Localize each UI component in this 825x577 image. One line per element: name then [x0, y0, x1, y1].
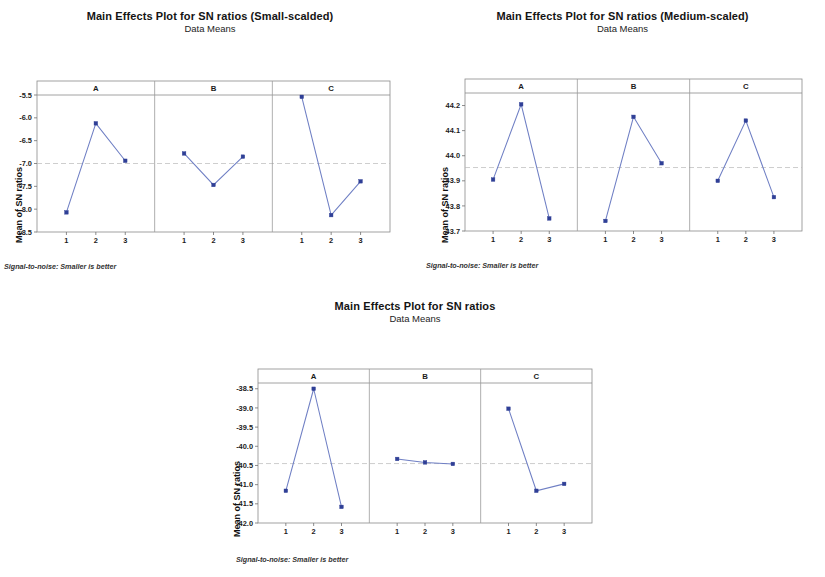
main-effects-plot-small-scalded: Main Effects Plot for SN ratios (Small-s…: [0, 0, 420, 290]
x-tick-label: 3: [123, 236, 127, 245]
x-tick-label: 2: [312, 527, 316, 536]
plot-svg: -38.5-39.0-39.5-40.0-40.5-41.0-41.5-42.0…: [210, 325, 620, 537]
plot-frame: [37, 81, 390, 232]
x-tick-label: 1: [182, 236, 186, 245]
x-tick-label: 1: [506, 527, 510, 536]
plot-frame: [465, 79, 802, 231]
x-tick-label: 3: [451, 527, 455, 536]
x-tick-label: 2: [744, 235, 748, 244]
x-tick-label: 2: [631, 235, 635, 244]
figure-subtitle: Data Means: [420, 23, 825, 35]
series-line-B: [605, 117, 661, 221]
panel-label-A: A: [311, 372, 317, 381]
data-point: [744, 119, 748, 123]
series-line-B: [184, 153, 243, 185]
panel-label-A: A: [93, 84, 99, 93]
x-tick-label: 3: [241, 236, 245, 245]
data-point: [519, 102, 523, 106]
series-line-A: [493, 104, 549, 218]
data-point: [123, 159, 127, 163]
x-tick-label: 2: [534, 527, 538, 536]
y-tick-label: -38.5: [236, 384, 253, 393]
x-tick-label: 1: [64, 236, 68, 245]
data-point: [395, 457, 399, 461]
x-tick-label: 1: [395, 527, 399, 536]
x-tick-label: 1: [716, 235, 720, 244]
y-axis-label: Mean of SN ratios: [232, 461, 242, 537]
y-tick-label: -39.5: [236, 423, 253, 432]
data-point: [547, 217, 551, 221]
figure-titles: Main Effects Plot for SN ratios Data Mea…: [210, 299, 620, 325]
data-point: [65, 211, 69, 215]
x-tick-label: 3: [359, 236, 363, 245]
x-tick-label: 3: [339, 527, 343, 536]
data-point: [212, 183, 216, 187]
y-tick-label: 44.0: [446, 151, 460, 160]
plot-svg: 44.244.144.043.943.843.7A123B123C123: [420, 35, 825, 245]
y-tick-label: -39.0: [236, 404, 253, 413]
x-tick-label: 2: [329, 236, 333, 245]
figure-titles: Main Effects Plot for SN ratios (Medium-…: [420, 9, 825, 35]
panel-label-C: C: [743, 82, 749, 91]
plot-svg: -5.5-6.0-6.5-7.0-7.5-8.0-8.5A123B123C123: [0, 35, 420, 245]
data-point: [423, 461, 427, 465]
plot-area: Mean of SN ratios 44.244.144.043.943.843…: [420, 35, 825, 245]
data-point: [562, 482, 566, 486]
main-effects-plot-sn-ratios: Main Effects Plot for SN ratios Data Mea…: [210, 290, 620, 577]
series-line-A: [66, 123, 125, 212]
data-point: [340, 505, 344, 509]
series-line-A: [286, 389, 342, 507]
x-tick-label: 2: [94, 236, 98, 245]
y-tick-label: 44.2: [446, 101, 460, 110]
data-point: [632, 115, 636, 119]
x-tick-label: 3: [660, 235, 664, 244]
figure-subtitle: Data Means: [210, 313, 620, 325]
x-tick-label: 1: [491, 235, 495, 244]
figure-subtitle: Data Means: [0, 23, 420, 35]
y-tick-label: -6.0: [19, 113, 32, 122]
footnote: Signal-to-noise: Smaller is better: [426, 261, 538, 270]
panel-label-B: B: [422, 372, 428, 381]
x-tick-label: 3: [772, 235, 776, 244]
panel-label-B: B: [631, 82, 637, 91]
data-point: [507, 407, 511, 411]
data-point: [716, 179, 720, 183]
series-line-C: [302, 97, 361, 215]
footnote: Signal-to-noise: Smaller is better: [4, 262, 116, 271]
footnote: Signal-to-noise: Smaller is better: [236, 555, 348, 564]
data-point: [182, 152, 186, 156]
data-point: [359, 180, 363, 184]
x-tick-label: 3: [562, 527, 566, 536]
plot-area: Mean of SN ratios -38.5-39.0-39.5-40.0-4…: [210, 325, 620, 537]
main-effects-plot-medium-scaled: Main Effects Plot for SN ratios (Medium-…: [420, 0, 825, 290]
data-point: [491, 178, 495, 182]
data-point: [312, 387, 316, 391]
figure-title: Main Effects Plot for SN ratios (Small-s…: [0, 9, 420, 23]
x-tick-label: 2: [211, 236, 215, 245]
data-point: [660, 161, 664, 165]
plot-frame: [258, 369, 592, 523]
figure-title: Main Effects Plot for SN ratios: [210, 299, 620, 313]
figure-title: Main Effects Plot for SN ratios (Medium-…: [420, 9, 825, 23]
series-line-C: [509, 409, 565, 491]
y-tick-label: -40.0: [236, 442, 253, 451]
panel-label-A: A: [518, 82, 524, 91]
x-tick-label: 3: [547, 235, 551, 244]
y-tick-label: -5.5: [19, 91, 32, 100]
data-point: [604, 219, 608, 223]
x-tick-label: 1: [300, 236, 304, 245]
y-axis-label: Mean of SN ratios: [440, 167, 450, 243]
x-tick-label: 1: [284, 527, 288, 536]
data-point: [772, 195, 776, 199]
figure-titles: Main Effects Plot for SN ratios (Small-s…: [0, 9, 420, 35]
x-tick-label: 2: [519, 235, 523, 244]
data-point: [300, 95, 304, 99]
data-point: [241, 155, 245, 159]
x-tick-label: 1: [603, 235, 607, 244]
panel-label-B: B: [211, 84, 217, 93]
panel-label-C: C: [328, 84, 334, 93]
data-point: [94, 122, 98, 126]
plot-area: Mean of SN ratios -5.5-6.0-6.5-7.0-7.5-8…: [0, 35, 420, 245]
data-point: [451, 462, 455, 466]
panel-label-C: C: [534, 372, 540, 381]
